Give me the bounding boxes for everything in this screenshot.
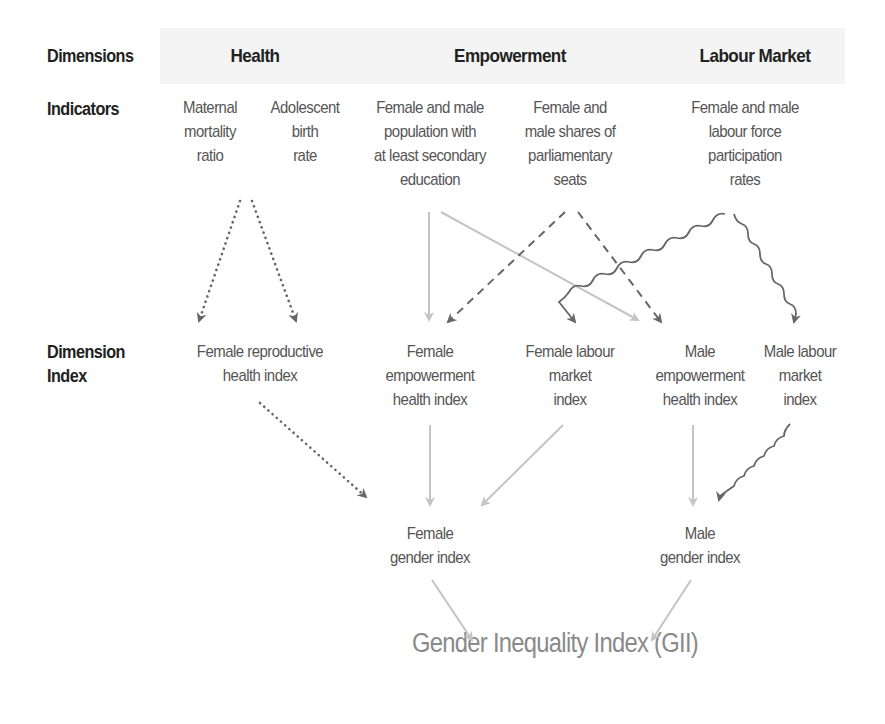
- arrow-labour-force-to-male-labour: [734, 214, 796, 322]
- light-solid-arrows: [429, 212, 693, 640]
- dashed-arrows-parliament: [448, 212, 661, 322]
- arrow-reproductive-to-female-gender: [260, 403, 366, 497]
- arrow-maternal-to-reproductive: [199, 201, 240, 321]
- arrow-adolescent-to-reproductive: [252, 201, 296, 321]
- wavy-arrows: [559, 214, 796, 500]
- arrow-education-to-male-empowerment: [441, 212, 638, 320]
- arrow-labour-force-to-female-labour: [559, 214, 725, 322]
- arrow-parliament-to-male-empowerment: [578, 212, 661, 322]
- arrow-male-gender-to-gii: [652, 580, 691, 640]
- arrow-parliament-to-female-empowerment: [448, 212, 565, 322]
- arrow-female-gender-to-gii: [432, 580, 472, 640]
- flow-arrows: [0, 0, 885, 724]
- arrow-male-labour-to-male-gender: [719, 424, 790, 500]
- dotted-arrows-health: [199, 201, 366, 497]
- arrow-female-labour-to-female-gender: [482, 425, 563, 505]
